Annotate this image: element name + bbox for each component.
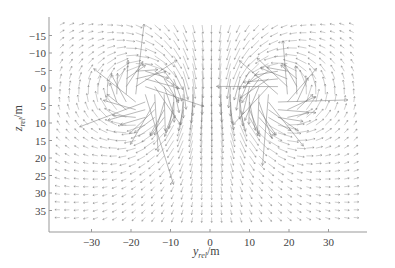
y-tick-label: 20 — [35, 152, 47, 164]
y-tick-label: 15 — [35, 135, 47, 147]
y-tick-label: 30 — [35, 187, 47, 199]
y-tick-label: −15 — [29, 30, 47, 42]
y-tick-label: −10 — [29, 47, 47, 59]
quiver-plot: −30−20−100102030−15−10−505101520253035 — [0, 0, 395, 268]
x-tick-label: 20 — [284, 236, 296, 248]
y-axis-label: zrel/m — [11, 105, 27, 131]
y-tick-label: 10 — [35, 117, 47, 129]
y-tick-label: 35 — [35, 205, 47, 217]
x-tick-label: 10 — [244, 236, 256, 248]
x-axis-label: yrel/m — [193, 244, 220, 260]
y-tick-label: 0 — [41, 82, 47, 94]
y-tick-label: 5 — [41, 100, 47, 112]
y-tick-label: 25 — [35, 170, 47, 182]
vector-field-arrows — [55, 23, 359, 223]
x-tick-label: −20 — [122, 236, 140, 248]
x-tick-label: 30 — [323, 236, 335, 248]
x-tick-label: −10 — [162, 236, 180, 248]
y-tick-label: −5 — [34, 65, 46, 77]
x-tick-label: −30 — [83, 236, 101, 248]
